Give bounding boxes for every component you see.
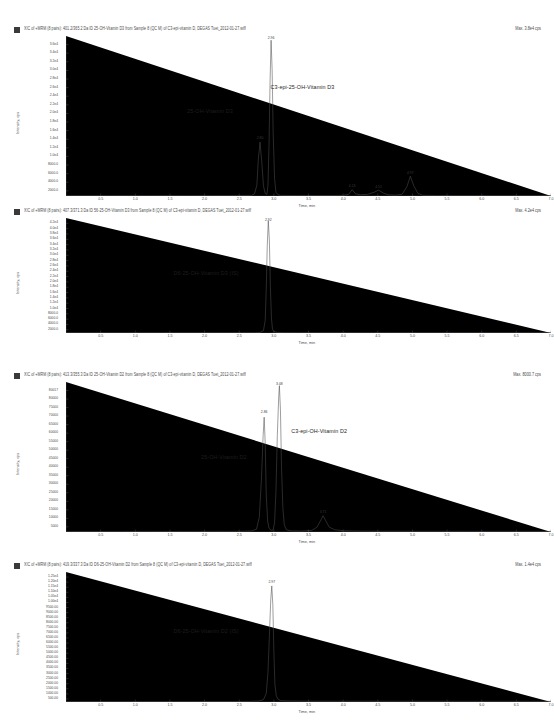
y-axis-tick-label: 8500.00 [22, 616, 58, 619]
y-axis-tick-label: 9000.00 [22, 611, 58, 614]
y-axis-tick-label: 10000 [22, 517, 58, 520]
peak-retention-time-label: 3.71 [320, 510, 327, 514]
x-axis-tick-label: 2.5 [237, 198, 242, 202]
x-axis-tick-label: 5.0 [410, 534, 415, 538]
compound-annotation-label: C3-epi-25-OH-Vitamin D3 [270, 84, 334, 90]
y-axis-tick-label: 15000 [22, 508, 58, 511]
x-axis-tick-label: 3.5 [306, 335, 311, 339]
y-axis-tick-label: 1.6e4 [22, 129, 58, 132]
x-axis-tick-label: 7.0 [549, 704, 554, 708]
x-axis-tick-label: 6.5 [514, 534, 519, 538]
plot-area: Intensity, cps1.25e41.20e41.15e41.10e41.… [14, 572, 541, 716]
panel-max-intensity-label: Max. 1.4e4 cps [515, 562, 541, 567]
y-axis-tick-label: 2.6e4 [22, 86, 58, 89]
x-axis-tick-label: 4.0 [341, 704, 346, 708]
y-axis-tick-label: 2.0e4 [22, 280, 58, 283]
y-axis-tick-label: 25000 [22, 491, 58, 494]
peak-retention-time-label: 2.97 [268, 580, 275, 584]
chromatogram-trace-svg [66, 218, 551, 333]
chromatogram-trace-svg [66, 36, 551, 196]
x-axis-tick-label: 4.0 [341, 335, 346, 339]
y-axis-tick-label: 2000.0 [22, 328, 58, 331]
series-color-swatch-icon [14, 209, 20, 215]
y-axis-tick-label: 1.0e4 [22, 307, 58, 310]
x-axis-tick-label: 3.5 [306, 198, 311, 202]
x-axis-tick-label: 5.5 [445, 335, 450, 339]
x-axis-tick-label: 4.0 [341, 534, 346, 538]
y-axis-tick-label: 4000.0 [22, 323, 58, 326]
x-axis-tick-label: 2.0 [202, 534, 207, 538]
y-axis-tick-label: 4.2e4 [22, 222, 58, 225]
x-axis-tick-label: 7.0 [549, 198, 554, 202]
x-axis-tick-label: 7.0 [549, 335, 554, 339]
x-axis-tick-label: 1.0 [133, 198, 138, 202]
peak-retention-time-label: 4.97 [407, 171, 414, 175]
x-axis-tick-label: 1.5 [167, 198, 172, 202]
chromatogram-trace-svg [66, 382, 551, 532]
y-axis-tick-label: 1.20e4 [22, 581, 58, 584]
chromatogram-trace-svg [66, 572, 551, 702]
x-axis-tick-label: 0.5 [98, 534, 103, 538]
x-axis-tick-label: 4.5 [375, 534, 380, 538]
x-axis-tick-label: 1.5 [167, 534, 172, 538]
x-axis-tick-label: 1.0 [133, 335, 138, 339]
y-axis-tick-label: 7000.00 [22, 631, 58, 634]
y-axis-title: Intensity, cps [16, 271, 20, 293]
panel-max-intensity-label: Max. 3.8e4 cps [515, 26, 541, 31]
y-axis-title: Intensity, cps [16, 112, 20, 134]
peak-retention-time-label: 2.80 [257, 136, 264, 140]
y-axis-tick-label: 1.0e4 [22, 155, 58, 158]
x-axis-tick-label: 2.0 [202, 704, 207, 708]
y-axis-tick-label: 8000.0 [22, 312, 58, 315]
y-axis-tick-label: 2.0e4 [22, 112, 58, 115]
x-axis-tick-label: 5.5 [445, 704, 450, 708]
series-color-swatch-icon [14, 563, 20, 569]
y-axis-tick-label: 5000 [22, 525, 58, 528]
panel-header: XIC of +MRM (8 pairs): 413.3/355.3 Da ID… [14, 372, 541, 381]
peak-retention-time-label: 4.13 [349, 184, 356, 188]
compound-annotation-label: 25-OH-Vitamin D3 [187, 108, 233, 114]
x-axis-tick-label: 5.0 [410, 704, 415, 708]
y-axis-tick-label: 35000 [22, 474, 58, 477]
y-axis-tick-label: 20000 [22, 500, 58, 503]
peak-retention-time-label: 2.96 [268, 36, 275, 40]
x-axis-title: Time, min [299, 540, 316, 544]
y-axis-tick-label: 3.4e4 [22, 52, 58, 55]
y-axis-tick-label: 8000.00 [22, 621, 58, 624]
y-axis-tick-label: 3.8e4 [22, 232, 58, 235]
y-axis-tick-label: 3.6e4 [22, 43, 58, 46]
y-axis-tick-label: 55000 [22, 440, 58, 443]
y-axis-tick-label: 4.0e4 [22, 227, 58, 230]
panel-max-intensity-label: Max. 4.2e4 cps [515, 208, 541, 213]
y-axis-tick-label: 80000 [22, 397, 58, 400]
y-axis-tick-label: 3.0e4 [22, 69, 58, 72]
y-axis-tick-label: 2.8e4 [22, 77, 58, 80]
x-axis-tick-label: 6.0 [479, 534, 484, 538]
peak-retention-time-label: 2.92 [265, 218, 272, 222]
peak-retention-time-label: 2.86 [261, 410, 268, 414]
y-axis-tick-label: 5000.00 [22, 652, 58, 655]
x-axis-tick-label: 2.5 [237, 534, 242, 538]
y-axis-tick-label: 2.8e4 [22, 259, 58, 262]
x-axis-tick-label: 0.5 [98, 198, 103, 202]
compound-annotation-label: D6-25-OH-Vitamin D3 (IS) [173, 270, 238, 276]
y-axis-tick-label: 7500.00 [22, 626, 58, 629]
x-axis-tick-label: 4.5 [375, 198, 380, 202]
x-axis-tick-label: 3.0 [271, 534, 276, 538]
x-axis-tick-label: 2.5 [237, 335, 242, 339]
y-axis-tick-label: 4000.00 [22, 662, 58, 665]
x-axis-tick-label: 6.0 [479, 198, 484, 202]
x-axis-tick-label: 4.0 [341, 198, 346, 202]
y-axis-tick-label: 2.4e4 [22, 95, 58, 98]
y-axis-tick-label: 6000.0 [22, 318, 58, 321]
x-axis-tick-label: 2.0 [202, 198, 207, 202]
y-axis-tick-label: 30000 [22, 483, 58, 486]
x-axis-tick-label: 1.5 [167, 335, 172, 339]
chromatogram-panel-1: XIC of +MRM (8 pairs): 401.2/365.2 Da ID… [14, 26, 541, 222]
y-axis-tick-label: 2.2e4 [22, 103, 58, 106]
y-axis-tick-label: 3.4e4 [22, 243, 58, 246]
x-axis-tick-label: 7.0 [549, 534, 554, 538]
y-axis-tick-label: 60000 [22, 431, 58, 434]
y-axis-tick-label: 5500.00 [22, 647, 58, 650]
